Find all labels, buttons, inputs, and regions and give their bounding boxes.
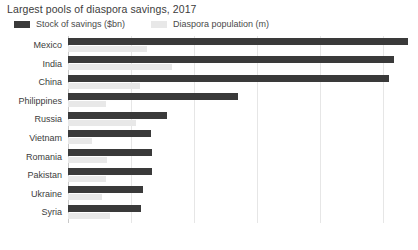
chart-title: Largest pools of diaspora savings, 2017 [7, 3, 197, 15]
plot-area: MexicoIndiaChinaPhilippinesRussiaVietnam… [0, 36, 418, 226]
bar-row: China [0, 73, 418, 92]
chart-legend: Stock of savings ($bn) Diaspora populati… [14, 19, 269, 29]
bar-diaspora-population-ukraine [68, 194, 102, 200]
bar-diaspora-population-vietnam [68, 138, 92, 144]
bar-diaspora-population-mexico [68, 46, 147, 52]
bar-stock-of-savings-china [68, 75, 389, 82]
bar-diaspora-population-pakistan [68, 176, 106, 182]
bar-row: Ukraine [0, 185, 418, 204]
bar-stock-of-savings-syria [68, 205, 141, 212]
category-label-india: India [0, 55, 62, 74]
legend-swatch-light [151, 21, 167, 28]
legend-swatch-dark [14, 21, 30, 28]
legend-label-stock-of-savings: Stock of savings ($bn) [36, 19, 125, 29]
bar-row: Russia [0, 110, 418, 129]
bar-row: Mexico [0, 36, 418, 55]
bar-row: Romania [0, 148, 418, 167]
bar-row: India [0, 55, 418, 74]
bar-diaspora-population-syria [68, 213, 110, 219]
legend-item-diaspora-population: Diaspora population (m) [151, 19, 269, 29]
category-label-syria: Syria [0, 203, 62, 222]
category-label-china: China [0, 73, 62, 92]
bar-diaspora-population-russia [68, 120, 136, 126]
bar-diaspora-population-china [68, 83, 140, 89]
bar-stock-of-savings-russia [68, 112, 167, 119]
bar-stock-of-savings-ukraine [68, 186, 143, 193]
legend-label-diaspora-population: Diaspora population (m) [173, 19, 269, 29]
chart-container: Largest pools of diaspora savings, 2017 … [0, 0, 418, 250]
bar-row: Syria [0, 203, 418, 222]
bar-stock-of-savings-vietnam [68, 130, 151, 137]
bar-diaspora-population-philippines [68, 101, 106, 107]
bar-stock-of-savings-pakistan [68, 168, 152, 175]
bar-row: Philippines [0, 92, 418, 111]
category-label-mexico: Mexico [0, 36, 62, 55]
category-label-pakistan: Pakistan [0, 166, 62, 185]
bar-row: Pakistan [0, 166, 418, 185]
bar-stock-of-savings-india [68, 56, 394, 63]
category-label-vietnam: Vietnam [0, 129, 62, 148]
bar-row: Vietnam [0, 129, 418, 148]
bar-diaspora-population-india [68, 64, 172, 70]
category-label-romania: Romania [0, 148, 62, 167]
category-label-philippines: Philippines [0, 92, 62, 111]
bar-stock-of-savings-philippines [68, 93, 238, 100]
category-label-ukraine: Ukraine [0, 185, 62, 204]
category-label-russia: Russia [0, 110, 62, 129]
bar-stock-of-savings-romania [68, 149, 152, 156]
bar-stock-of-savings-mexico [68, 38, 408, 45]
bar-diaspora-population-romania [68, 157, 107, 163]
legend-item-stock-of-savings: Stock of savings ($bn) [14, 19, 125, 29]
bar-rows: MexicoIndiaChinaPhilippinesRussiaVietnam… [0, 36, 418, 222]
